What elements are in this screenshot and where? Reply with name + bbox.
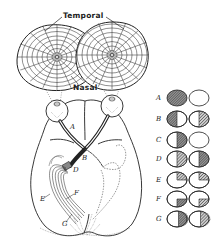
pathway-label-a: A: [69, 123, 75, 131]
legend-row-e: E: [155, 172, 209, 188]
pathway-label-g: G: [62, 220, 68, 228]
temporal-label: Temporal: [63, 11, 103, 20]
legend-label-c: C: [156, 136, 162, 144]
legend-row-b: B: [155, 111, 209, 127]
defect-legend: A B C D: [155, 90, 211, 227]
visual-pathway-diagram: Temporal Nasal: [0, 0, 214, 249]
legend-label-e: E: [155, 176, 161, 184]
pathway-label-e: E: [39, 195, 45, 203]
legend-row-a: A: [155, 90, 209, 106]
field-a-right: [189, 90, 209, 106]
field-a-left: [167, 90, 187, 106]
pathway-label-f: F: [73, 189, 80, 197]
legend-row-g: G: [156, 211, 211, 227]
right-eye: [101, 95, 123, 117]
field-b-right-defect: [199, 111, 209, 127]
legend-label-a: A: [155, 94, 161, 102]
legend-label-g: G: [156, 215, 162, 223]
pathway-label-d: D: [72, 166, 79, 174]
field-c-right: [189, 132, 209, 148]
field-d-right-defect: [199, 151, 209, 167]
legend-label-f: F: [155, 195, 162, 203]
optic-radiation: [49, 155, 85, 224]
field-b-left-defect: [167, 111, 177, 127]
nasal-label: Nasal: [73, 83, 97, 92]
right-radiation-dashed: [92, 145, 126, 220]
legend-label-d: D: [155, 155, 162, 163]
legend-row-f: F: [155, 191, 209, 207]
legend-row-c: C: [156, 132, 209, 148]
field-d-left-defect: [177, 151, 187, 167]
field-c-left-defect: [177, 132, 187, 148]
legend-label-b: B: [155, 115, 161, 123]
pathway-label-b: B: [81, 154, 87, 162]
brain-outline: [31, 100, 142, 236]
legend-row-d: D: [155, 151, 209, 167]
left-eye: [46, 100, 68, 122]
